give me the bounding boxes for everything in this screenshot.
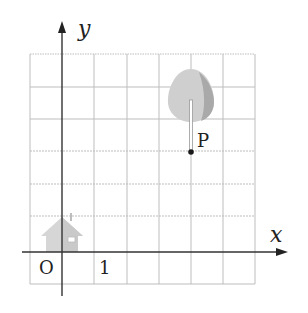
point-p-label: P: [197, 132, 209, 150]
point-p-marker: [188, 149, 194, 155]
axes: [22, 30, 280, 296]
x-axis-label: x: [270, 224, 282, 246]
origin-label: O: [39, 259, 54, 277]
unit-label: 1: [99, 259, 110, 277]
y-axis-label: y: [78, 18, 90, 40]
y-axis-arrow-icon: [58, 21, 66, 33]
x-axis-arrow-icon: [276, 248, 288, 256]
coordinate-diagram: y x O 1 P: [0, 0, 308, 313]
